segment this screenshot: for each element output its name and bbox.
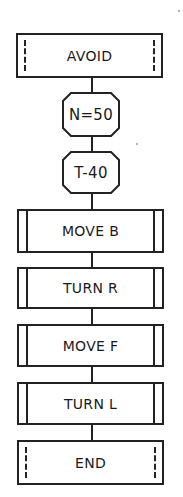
connector-moveb-turnr xyxy=(91,253,93,267)
connector-n50-t40 xyxy=(91,137,93,151)
node-label: TURN L xyxy=(64,396,117,412)
node-move-b: MOVE B xyxy=(17,209,164,253)
node-label: AVOID xyxy=(67,48,112,64)
connector-t40-moveb xyxy=(91,194,93,209)
node-label: MOVE F xyxy=(63,338,119,354)
connector-avoid-n50 xyxy=(91,78,93,92)
node-label: MOVE B xyxy=(62,223,119,239)
node-label: END xyxy=(75,455,106,471)
node-label: T-40 xyxy=(74,164,108,182)
node-t40: T-40 xyxy=(62,151,120,194)
connector-turnl-end xyxy=(91,425,93,440)
node-end: END xyxy=(17,440,164,485)
node-move-f: MOVE F xyxy=(17,324,164,367)
connector-movef-turnl xyxy=(91,367,93,382)
node-avoid: AVOID xyxy=(16,33,163,78)
node-turn-r: TURN R xyxy=(17,267,164,309)
connector-turnr-movef xyxy=(91,309,93,324)
node-turn-l: TURN L xyxy=(17,382,164,425)
scan-speck xyxy=(136,143,138,145)
scan-speck xyxy=(178,10,180,12)
node-label: TURN R xyxy=(63,280,118,296)
node-label: N=50 xyxy=(69,106,113,124)
node-n50: N=50 xyxy=(62,92,120,137)
